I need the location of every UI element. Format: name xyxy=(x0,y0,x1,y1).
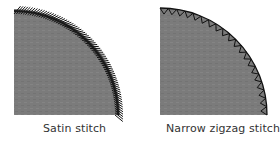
fabric-shape xyxy=(160,8,267,115)
zigzag-stitch-caption: Narrow zigzag stitch xyxy=(166,122,280,135)
satin-stitch-panel: Satin stitch xyxy=(0,0,140,154)
satin-stitch-caption: Satin stitch xyxy=(43,122,106,135)
zigzag-stitch-panel: Narrow zigzag stitch xyxy=(140,0,280,154)
